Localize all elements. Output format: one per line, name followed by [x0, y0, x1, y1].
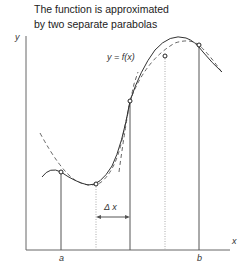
y-axis-label: y [15, 32, 20, 42]
x-axis-label: x [232, 236, 237, 246]
sample-point-4 [197, 43, 201, 47]
sample-point-3 [163, 54, 167, 58]
delta-x-label: Δ x [104, 202, 117, 212]
label-a: a [59, 253, 64, 263]
delta-x-arrow [96, 215, 130, 219]
sample-point-1 [94, 182, 98, 186]
sample-point-2 [128, 99, 132, 103]
parabola-1-dashed [40, 72, 138, 185]
simpson-diagram [0, 0, 247, 263]
function-label: y = f(x) [107, 52, 135, 62]
sample-point-0 [59, 170, 63, 174]
label-b: b [197, 253, 202, 263]
